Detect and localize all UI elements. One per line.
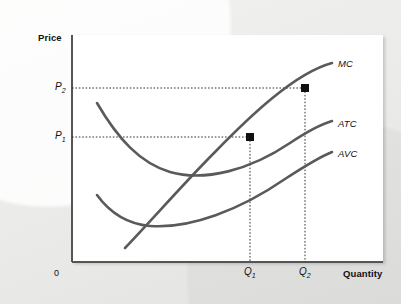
x-tick-label-q1: Q1 (244, 266, 256, 279)
y-tick-p2-subscript: 2 (62, 87, 66, 94)
x-tick-label-q2: Q2 (299, 266, 311, 279)
curve-atc (97, 103, 332, 175)
curve-avc (97, 152, 332, 226)
y-tick-label-p1: P1 (55, 130, 66, 143)
marker-equilibrium-2 (301, 84, 309, 92)
x-tick-q1-base: Q (244, 266, 252, 277)
y-tick-p2-base: P (55, 81, 62, 92)
x-axis-title: Quantity (343, 268, 382, 279)
y-tick-label-p2: P2 (55, 81, 66, 94)
cost-curve-figure: Price Quantity P2 P1 Q1 Q2 0 MC ATC AVC (0, 0, 401, 304)
x-tick-q1-subscript: 1 (252, 272, 256, 279)
y-tick-p1-base: P (55, 130, 62, 141)
curve-mc (125, 63, 332, 248)
y-tick-p1-subscript: 1 (62, 136, 66, 143)
curve-label-avc: AVC (338, 148, 358, 159)
curve-label-mc: MC (338, 58, 353, 69)
x-tick-q2-base: Q (299, 266, 307, 277)
marker-equilibrium-1 (246, 133, 254, 141)
y-axis-title: Price (38, 32, 62, 43)
x-tick-q2-subscript: 2 (307, 272, 311, 279)
origin-label: 0 (54, 268, 59, 278)
curve-label-atc: ATC (338, 118, 357, 129)
